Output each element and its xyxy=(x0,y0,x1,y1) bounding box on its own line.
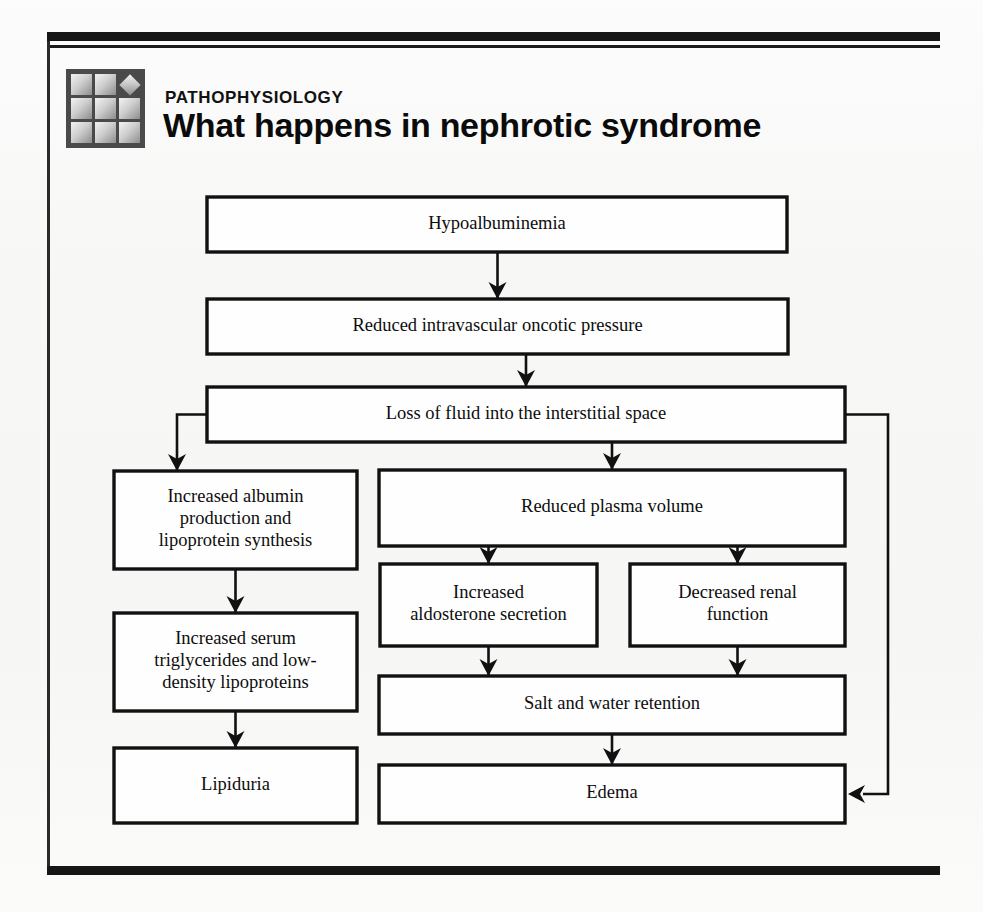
flow-node-hypoalbuminemia: Hypoalbuminemia xyxy=(207,197,787,252)
flow-node-aldosterone: Increasedaldosterone secretion xyxy=(380,564,597,646)
flow-node-label: Reduced intravascular oncotic pressure xyxy=(352,315,642,335)
flow-node-label: Loss of fluid into the interstitial spac… xyxy=(386,403,667,423)
flow-node-renal-function: Decreased renalfunction xyxy=(630,564,845,646)
flow-node-edema: Edema xyxy=(379,765,845,823)
flow-node-label: Hypoalbuminemia xyxy=(428,213,566,233)
flow-edge-salt-water-to-edema xyxy=(603,734,621,765)
flow-node-label: Lipiduria xyxy=(201,774,270,794)
flow-node-lipiduria: Lipiduria xyxy=(114,748,357,823)
flow-node-label: Increased serumtriglycerides and low-den… xyxy=(154,628,316,692)
flow-node-oncotic: Reduced intravascular oncotic pressure xyxy=(207,299,788,354)
flow-edge-aldosterone-to-salt-water xyxy=(480,646,498,676)
flow-edge-hypoalbuminemia-to-oncotic xyxy=(489,252,507,299)
flow-node-salt-water: Salt and water retention xyxy=(379,676,845,734)
flow-node-label: Increased albuminproduction andlipoprote… xyxy=(159,486,313,550)
flow-node-label: Edema xyxy=(586,782,637,802)
flow-edge-triglycerides-to-lipiduria xyxy=(227,711,245,748)
flow-node-triglycerides: Increased serumtriglycerides and low-den… xyxy=(114,613,357,711)
page-root: PATHOPHYSIOLOGY What happens in nephroti… xyxy=(0,0,983,912)
flow-edge-plasma-volume-to-renal-function xyxy=(729,546,747,564)
flow-node-albumin-production: Increased albuminproduction andlipoprote… xyxy=(114,471,357,569)
flowchart: HypoalbuminemiaReduced intravascular onc… xyxy=(0,0,983,912)
flow-edge-albumin-production-to-triglycerides xyxy=(227,569,245,613)
flow-connector xyxy=(177,415,207,472)
flow-edge-loss-fluid-to-edema xyxy=(845,415,888,804)
flow-edge-loss-fluid-to-plasma-volume xyxy=(603,442,621,470)
flow-node-loss-fluid: Loss of fluid into the interstitial spac… xyxy=(207,387,845,442)
flow-node-label: Salt and water retention xyxy=(524,693,700,713)
arrowhead-icon xyxy=(848,785,865,803)
flow-node-plasma-volume: Reduced plasma volume xyxy=(379,470,845,546)
flow-node-label: Reduced plasma volume xyxy=(521,496,703,516)
flow-edge-plasma-volume-to-aldosterone xyxy=(480,546,498,564)
flow-edge-loss-fluid-to-albumin-production xyxy=(168,415,207,472)
flow-edge-oncotic-to-loss-fluid xyxy=(517,354,535,387)
flowchart-nodes: HypoalbuminemiaReduced intravascular onc… xyxy=(114,197,845,823)
flow-connector xyxy=(845,415,888,795)
flow-edge-renal-function-to-salt-water xyxy=(729,646,747,676)
